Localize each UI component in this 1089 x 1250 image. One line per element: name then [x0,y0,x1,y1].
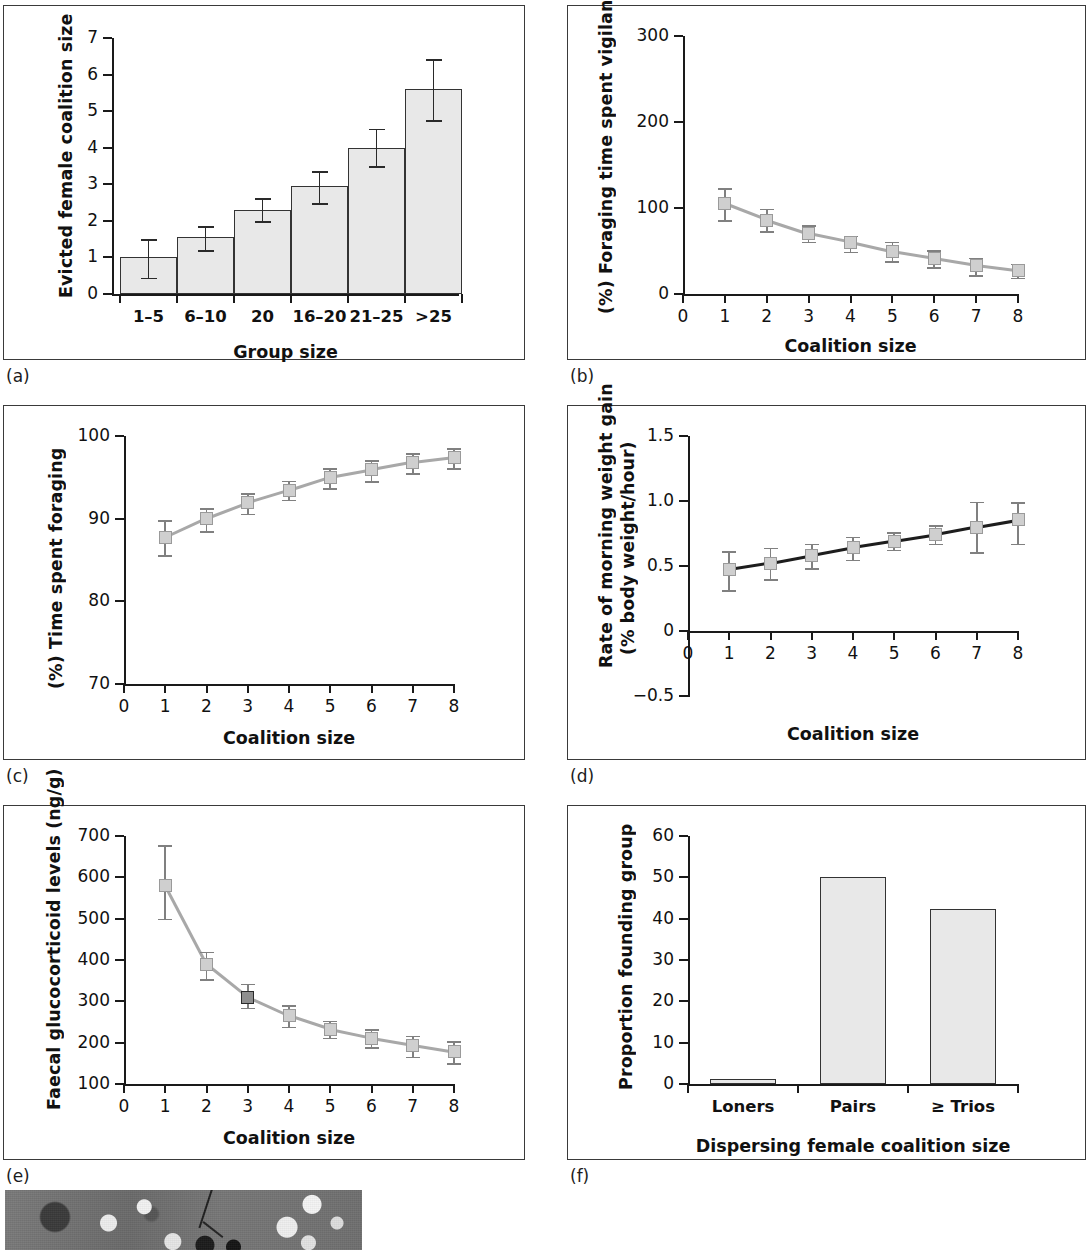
chart-a-ytick [103,110,112,112]
chart-f-ytick [679,876,688,878]
error-cap-top-0 [158,845,172,847]
chart-e-xtick-label: 6 [352,1096,392,1116]
error-cap-top-4 [885,242,899,244]
error-cap-top-6 [406,1036,420,1038]
chart-e-ytick [115,918,124,920]
error-cap-bottom-2 [802,242,816,244]
error-cap-top-7 [1011,502,1025,504]
chart-a-xtick [347,294,349,303]
error-cap-top-2 [241,984,255,986]
data-point-0 [159,531,172,544]
chart-c-xtick [329,684,331,693]
data-point-2 [241,496,254,509]
chart-f-xtick [1017,1084,1019,1093]
error-cap-bottom-1 [200,531,214,533]
chart-b-xtick-label: 7 [956,306,996,326]
error-cap-top-4 [887,532,901,534]
chart-d-ytick-label: 1.0 [626,490,674,510]
error-cap-top-0 [722,551,736,553]
chart-d-xtick [687,631,689,640]
chart-c-xtick [371,684,373,693]
chart-a-x-axis [112,294,459,296]
error-cap-bottom-5 [365,1047,379,1049]
chart-c-xtick-label: 1 [145,696,185,716]
data-point-0 [723,563,736,576]
panel-d: Rate of morning weight gain(% body weigh… [567,405,1086,760]
chart-d-xtick [893,631,895,640]
data-point-4 [886,245,899,258]
chart-b-xtick [682,294,684,303]
data-point-2 [802,227,815,240]
error-cap-bottom-6 [970,552,984,554]
chart-e-xtick-label: 7 [393,1096,433,1116]
chart-b-y-axis [683,36,685,295]
chart-f-ytick-label: 0 [630,1073,674,1093]
chart-b-line: (%) Foraging time spent vigilant01002003… [568,6,1085,359]
data-point-3 [283,484,296,497]
chart-f-ytick-label: 60 [630,825,674,845]
chart-d-ytick [679,500,688,502]
chart-b-ytick [674,121,683,123]
chart-d-ytick-label: 0.5 [626,555,674,575]
chart-b-xtick-label: 8 [998,306,1038,326]
chart-a-xtick [290,294,292,303]
error-cap-bottom-7 [447,1063,461,1065]
chart-e-xtick-label: 2 [187,1096,227,1116]
chart-a-ytick-label: 4 [54,137,98,157]
chart-d-xtick-label: 0 [668,643,708,663]
error-cap-top-5 [426,59,442,61]
chart-a-x-axis-title: Group size [112,342,459,362]
chart-f-ytick-label: 40 [630,908,674,928]
chart-f-ytick [679,1000,688,1002]
chart-e-xtick [206,1084,208,1093]
figure-grid: Evicted female coalition size012345671–5… [0,0,1089,1250]
x-category-label-2: ≥ Trios [908,1097,1018,1116]
chart-d-xtick [811,631,813,640]
error-cap-top-1 [760,209,774,211]
chart-e-ytick-label: 300 [62,990,110,1010]
chart-a-ytick [103,183,112,185]
data-point-5 [928,252,941,265]
chart-b-xtick [1017,294,1019,303]
chart-b-xtick [933,294,935,303]
error-cap-bottom-3 [844,252,858,254]
error-cap-top-1 [198,226,214,228]
chart-a-ytick-label: 2 [54,210,98,230]
chart-e-xtick [123,1084,125,1093]
chart-e-ytick-label: 400 [62,949,110,969]
chart-d-ytick [679,695,688,697]
error-cap-bottom-7 [1011,544,1025,546]
panel-label-f: (f) [570,1166,589,1186]
error-cap-top-1 [200,508,214,510]
chart-c-y-axis [124,436,126,685]
chart-a-bar: Evicted female coalition size012345671–5… [4,6,524,359]
bar-2 [930,909,996,1084]
chart-e-ytick [115,959,124,961]
chart-e-ytick-label: 600 [62,866,110,886]
data-point-7 [448,451,461,464]
chart-f-ytick [679,959,688,961]
bar-1 [820,877,886,1084]
data-point-6 [406,1039,419,1052]
chart-e-ytick [115,1042,124,1044]
error-cap-bottom-0 [141,278,157,280]
chart-a-ytick-label: 3 [54,173,98,193]
chart-c-ytick-label: 70 [62,673,110,693]
error-cap-bottom-5 [365,481,379,483]
chart-a-ytick-label: 7 [54,27,98,47]
chart-b-xtick-label: 5 [872,306,912,326]
chart-c-x-axis-title: Coalition size [124,728,454,748]
chart-c-xtick-label: 5 [310,696,350,716]
chart-a-ytick [103,37,112,39]
chart-a-ytick-label: 6 [54,64,98,84]
chart-d-xtick-label: 5 [874,643,914,663]
error-cap-bottom-4 [323,1038,337,1040]
chart-b-xtick [808,294,810,303]
error-cap-top-2 [805,544,819,546]
error-cap-bottom-1 [760,231,774,233]
error-cap-bottom-2 [241,514,255,516]
data-point-2 [241,991,254,1004]
chart-b-ytick-label: 0 [621,283,669,303]
chart-b-xtick-label: 1 [705,306,745,326]
chart-c-xtick [247,684,249,693]
